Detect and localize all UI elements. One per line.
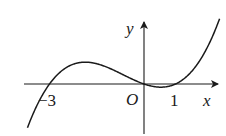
tick-label-one: 1 (170, 91, 179, 110)
function-graph: y x O −3 1 (0, 0, 226, 136)
tick-label-neg-three: −3 (38, 91, 56, 110)
origin-label: O (126, 90, 138, 109)
x-axis-label: x (202, 91, 211, 110)
cubic-curve (27, 19, 219, 128)
y-axis-label: y (124, 19, 134, 38)
